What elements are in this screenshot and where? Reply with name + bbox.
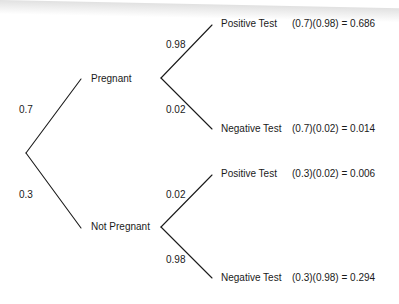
leaf-notpregnant-positive: Positive Test bbox=[221, 168, 277, 180]
branch-line-notpregnant-negative bbox=[161, 227, 212, 278]
branch-line-pregnant bbox=[26, 79, 81, 153]
probability-tree-diagram: 0.7 0.3 Pregnant Not Pregnant 0.98 0.02 … bbox=[0, 0, 399, 304]
prob-pregnant-positive: 0.98 bbox=[166, 39, 185, 51]
branch-line-not-pregnant bbox=[26, 153, 81, 228]
prob-not-pregnant: 0.3 bbox=[19, 189, 33, 201]
prob-pregnant: 0.7 bbox=[19, 104, 33, 116]
result-notpregnant-positive: (0.3)(0.02) = 0.006 bbox=[292, 168, 375, 180]
result-notpregnant-negative: (0.3)(0.98) = 0.294 bbox=[292, 272, 375, 284]
result-pregnant-positive: (0.7)(0.98) = 0.686 bbox=[292, 18, 375, 30]
prob-notpregnant-negative: 0.98 bbox=[166, 254, 185, 266]
leaf-pregnant-positive: Positive Test bbox=[221, 18, 277, 30]
branch-line-pregnant-positive bbox=[161, 25, 212, 78]
result-pregnant-negative: (0.7)(0.02) = 0.014 bbox=[292, 123, 375, 135]
leaf-pregnant-negative: Negative Test bbox=[221, 123, 281, 135]
prob-notpregnant-positive: 0.02 bbox=[166, 189, 185, 201]
tree-lines bbox=[0, 0, 399, 304]
node-pregnant: Pregnant bbox=[91, 73, 132, 85]
branch-line-notpregnant-positive bbox=[161, 175, 212, 227]
prob-pregnant-negative: 0.02 bbox=[166, 104, 185, 116]
leaf-notpregnant-negative: Negative Test bbox=[221, 272, 281, 284]
node-not-pregnant: Not Pregnant bbox=[91, 221, 150, 233]
